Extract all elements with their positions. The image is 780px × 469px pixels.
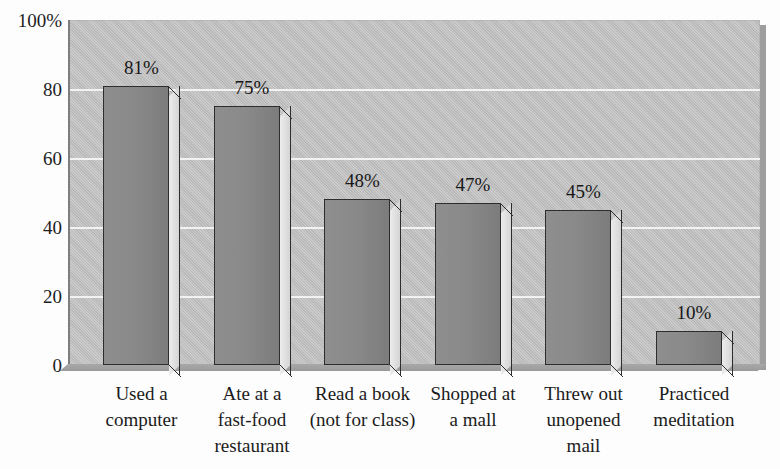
bar-bottom-edge [279, 364, 292, 377]
bar-top-edge [721, 331, 734, 344]
x-axis-label-3: Shopped ata mall [416, 381, 531, 433]
bar-group[interactable] [324, 199, 401, 365]
bar-group[interactable] [214, 106, 291, 365]
x-axis-label-line: mail [526, 433, 641, 459]
bar-top-edge [610, 210, 623, 223]
bar-front-face[interactable] [435, 203, 501, 365]
bar-side-outline [611, 210, 622, 376]
x-axis-label-0: Used acomputer [84, 381, 199, 433]
bar-bottom-edge [389, 364, 402, 377]
x-axis-label-line: Shopped at [416, 381, 531, 407]
bar-front-face[interactable] [545, 210, 611, 365]
bar-chart: • 100%806040200 81%75%48%47%45%10% Used … [0, 0, 780, 469]
bar-value-label: 81% [91, 58, 192, 77]
bar-side-outline [280, 106, 291, 376]
x-axis-label-2: Read a book(not for class) [305, 381, 420, 433]
bar-front-face[interactable] [656, 331, 722, 366]
x-axis-label-line: meditation [637, 407, 752, 433]
x-axis-label-line: Read a book [305, 381, 420, 407]
bar-side-outline [501, 203, 512, 376]
bar-value-label: 47% [423, 175, 524, 194]
bar-group[interactable] [656, 331, 733, 366]
bar-side-outline [390, 199, 401, 376]
x-axis-label-line: computer [84, 407, 199, 433]
x-axis-category-labels: Used acomputerAte at afast-foodrestauran… [68, 381, 768, 467]
bar-bottom-edge [500, 364, 513, 377]
x-axis-label-line: Used a [84, 381, 199, 407]
x-axis-label-line: unopened [526, 407, 641, 433]
bar-top-edge [500, 203, 513, 216]
bar-front-face[interactable] [103, 86, 169, 365]
x-axis-label-1: Ate at afast-foodrestaurant [195, 381, 310, 459]
bar-value-label: 48% [312, 171, 413, 190]
x-axis-label-line: fast-food [195, 407, 310, 433]
x-axis-label-line: Threw out [526, 381, 641, 407]
x-axis-label-line: Ate at a [195, 381, 310, 407]
bar-bottom-edge [721, 364, 734, 377]
bar-bottom-edge [610, 364, 623, 377]
bar-front-face[interactable] [214, 106, 280, 365]
bar-bottom-edge [168, 364, 181, 377]
x-axis-label-5: Practicedmeditation [637, 381, 752, 433]
x-axis-label-line: (not for class) [305, 407, 420, 433]
bar-group[interactable] [545, 210, 622, 365]
x-axis-label-4: Threw outunopenedmail [526, 381, 641, 459]
bar-top-edge [279, 106, 292, 119]
bar-front-face[interactable] [324, 199, 390, 365]
x-axis-label-line: a mall [416, 407, 531, 433]
bar-value-label: 10% [644, 303, 745, 322]
bar-side-outline [169, 86, 180, 376]
x-axis-label-line: restaurant [195, 433, 310, 459]
x-axis-label-line: Practiced [637, 381, 752, 407]
bar-top-edge [389, 199, 402, 212]
bar-value-label: 45% [533, 182, 634, 201]
bar-value-label: 75% [202, 78, 303, 97]
bar-group[interactable] [103, 86, 180, 365]
bar-top-edge [168, 86, 181, 99]
bar-group[interactable] [435, 203, 512, 365]
